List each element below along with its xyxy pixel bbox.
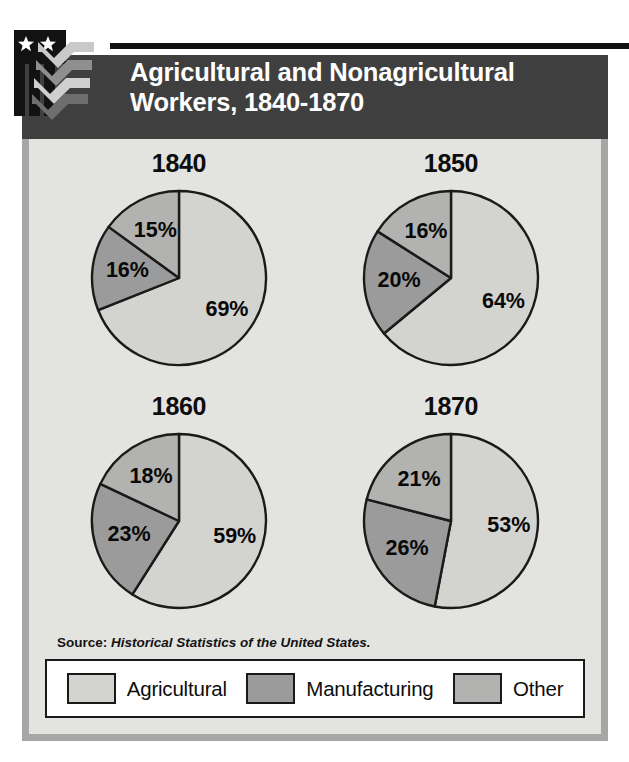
pie-slice-value-other: 16% [404, 219, 447, 243]
pie-slice-value-manufacturing: 26% [386, 536, 429, 560]
pie-slice-value-agricultural: 59% [213, 524, 256, 548]
pie-slice-value-manufacturing: 20% [378, 268, 421, 292]
pie-slice-value-agricultural: 69% [205, 297, 248, 321]
pie-svg: 64%20%16% [355, 182, 547, 374]
pie-svg-wrapper: 64%20%16% [315, 182, 587, 374]
page-title: Agricultural and Nonagricultural Workers… [130, 58, 600, 118]
pie-svg-wrapper: 69%16%15% [43, 182, 315, 374]
pie-svg-wrapper: 59%23%18% [43, 425, 315, 617]
legend: AgriculturalManufacturingOther [45, 659, 585, 718]
page-title-line-2: Workers, 1840-1870 [130, 88, 600, 118]
legend-item-other: Other [453, 673, 563, 704]
pie-chart-1870: 187053%26%21% [315, 386, 587, 629]
pie-year-label: 1840 [43, 143, 315, 176]
pie-svg: 53%26%21% [355, 425, 547, 617]
pie-chart-1860: 186059%23%18% [43, 386, 315, 629]
legend-item-manufacturing: Manufacturing [246, 673, 433, 704]
pie-slice-value-agricultural: 64% [482, 289, 525, 313]
pie-chart-1840: 184069%16%15% [43, 143, 315, 386]
legend-label-other: Other [513, 677, 563, 701]
pie-chart-1850: 185064%20%16% [315, 143, 587, 386]
legend-label-agricultural: Agricultural [127, 677, 227, 701]
chart-panel-inner: 184069%16%15%185064%20%16%186059%23%18%1… [29, 139, 601, 734]
title-top-rule [110, 43, 629, 49]
pie-slice-value-other: 21% [398, 467, 441, 491]
pie-year-label: 1870 [315, 386, 587, 419]
pie-year-label: 1860 [43, 386, 315, 419]
stars-and-stripes-chevron-logo [8, 26, 128, 136]
pie-slice-value-manufacturing: 16% [106, 258, 149, 282]
flag-stripe [29, 64, 40, 116]
legend-swatch-manufacturing [246, 673, 295, 704]
pie-svg: 59%23%18% [83, 425, 275, 617]
flag-stripe [14, 64, 25, 116]
pie-slice-value-manufacturing: 23% [108, 522, 151, 546]
source-title: Historical Statistics of the United Stat… [111, 635, 371, 650]
pie-slice-value-agricultural: 53% [487, 513, 530, 537]
chart-panel: 184069%16%15%185064%20%16%186059%23%18%1… [22, 139, 608, 741]
legend-swatch-agricultural [67, 673, 116, 704]
pie-year-label: 1850 [315, 143, 587, 176]
source-prefix: Source: [57, 635, 107, 650]
pie-svg: 69%16%15% [83, 182, 275, 374]
legend-label-manufacturing: Manufacturing [306, 677, 433, 701]
page-title-line-1: Agricultural and Nonagricultural [130, 58, 600, 88]
legend-item-agricultural: Agricultural [67, 673, 227, 704]
pie-chart-grid: 184069%16%15%185064%20%16%186059%23%18%1… [43, 143, 587, 629]
legend-swatch-other [453, 673, 502, 704]
pie-slice-value-other: 15% [134, 218, 177, 242]
pie-svg-wrapper: 53%26%21% [315, 425, 587, 617]
pie-slice-value-other: 18% [130, 464, 173, 488]
source-note: Source: Historical Statistics of the Uni… [57, 635, 371, 650]
